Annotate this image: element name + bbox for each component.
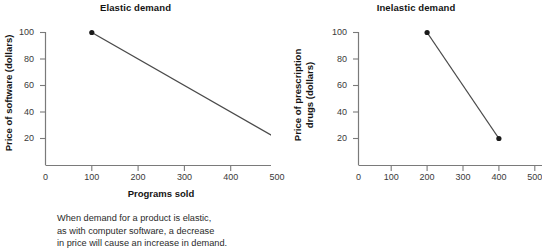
x-tick-label-500: 500 xyxy=(520,172,542,182)
y-tick-label-60: 60 xyxy=(8,80,34,90)
x-tick-label-100: 100 xyxy=(376,172,406,182)
data-point-100-100 xyxy=(89,30,94,35)
demand-line-inelastic xyxy=(427,33,499,139)
y-tick-label-100: 100 xyxy=(321,27,347,37)
x-tick-label-300: 300 xyxy=(448,172,478,182)
x-tick-label-100: 100 xyxy=(77,172,107,182)
x-tick-label-400: 400 xyxy=(216,172,246,182)
x-tick-label-0: 0 xyxy=(31,172,61,182)
elastic-demand-panel: Elastic demand Price of software (dollar… xyxy=(0,0,271,248)
data-point-400-20 xyxy=(496,136,501,141)
y-tick-label-60: 60 xyxy=(321,80,347,90)
y-tick-label-100: 100 xyxy=(8,27,34,37)
demand-elasticity-figure: Elastic demand Price of software (dollar… xyxy=(0,0,542,248)
x-tick-label-0: 0 xyxy=(344,172,374,182)
x-tick-label-400: 400 xyxy=(484,172,514,182)
x-axis-label-elastic: Programs sold xyxy=(45,188,277,199)
y-tick-label-40: 40 xyxy=(8,107,34,117)
y-tick-label-20: 20 xyxy=(321,133,347,143)
data-point-200-100 xyxy=(425,30,430,35)
x-tick-label-300: 300 xyxy=(169,172,199,182)
demand-line-elastic xyxy=(92,33,271,139)
y-axis-label-inelastic: Price of prescription drugs (dollars) xyxy=(292,15,315,175)
y-tick-label-80: 80 xyxy=(8,54,34,64)
x-tick-label-200: 200 xyxy=(123,172,153,182)
y-tick-label-40: 40 xyxy=(321,107,347,117)
caption-elastic: When demand for a product is elastic, as… xyxy=(57,212,272,248)
y-tick-label-80: 80 xyxy=(321,54,347,64)
y-axis-label-line1: Price of prescription xyxy=(292,49,303,141)
y-tick-label-20: 20 xyxy=(8,133,34,143)
y-axis-label-line2: drugs (dollars) xyxy=(304,62,315,129)
x-tick-label-200: 200 xyxy=(412,172,442,182)
